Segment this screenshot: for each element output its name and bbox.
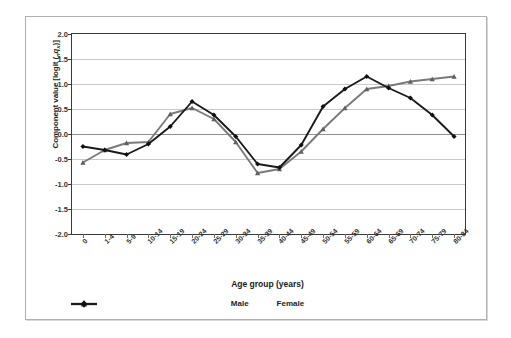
x-axis-tick-label: 0 <box>81 237 89 245</box>
series-line-female <box>83 77 454 168</box>
y-axis-tick-label: -2.0 <box>55 230 68 239</box>
data-series-layer <box>72 34 465 234</box>
series-line-male <box>83 77 454 174</box>
y-axis-tick-label: 0.0 <box>58 130 68 139</box>
legend-item-male: Male <box>231 299 249 308</box>
y-axis-tick-label: -1.0 <box>55 180 68 189</box>
y-axis-tick-label: 2.0 <box>58 30 68 39</box>
y-axis-tick-label: -1.5 <box>55 205 68 214</box>
plot-area: 2.01.51.00.50.0-0.5-1.0-1.5-2.0 01-45-91… <box>71 33 466 235</box>
legend-label-female: Female <box>277 299 305 308</box>
y-axis-tick-label: 1.0 <box>58 80 68 89</box>
legend-item-female: Female <box>277 299 305 308</box>
chart-frame: Component value [logit (nqx)] 2.01.51.00… <box>25 16 487 320</box>
legend-swatch-female <box>71 299 97 309</box>
legend-label-male: Male <box>231 299 249 308</box>
y-axis-tick-mark <box>68 234 72 235</box>
y-axis-tick-label: 0.5 <box>58 105 68 114</box>
x-axis-title: Age group (years) <box>71 279 464 289</box>
data-point-female <box>80 144 85 149</box>
y-axis-tick-label: -0.5 <box>55 155 68 164</box>
chart-legend: Male Female <box>71 299 464 308</box>
y-axis-tick-label: 1.5 <box>58 55 68 64</box>
